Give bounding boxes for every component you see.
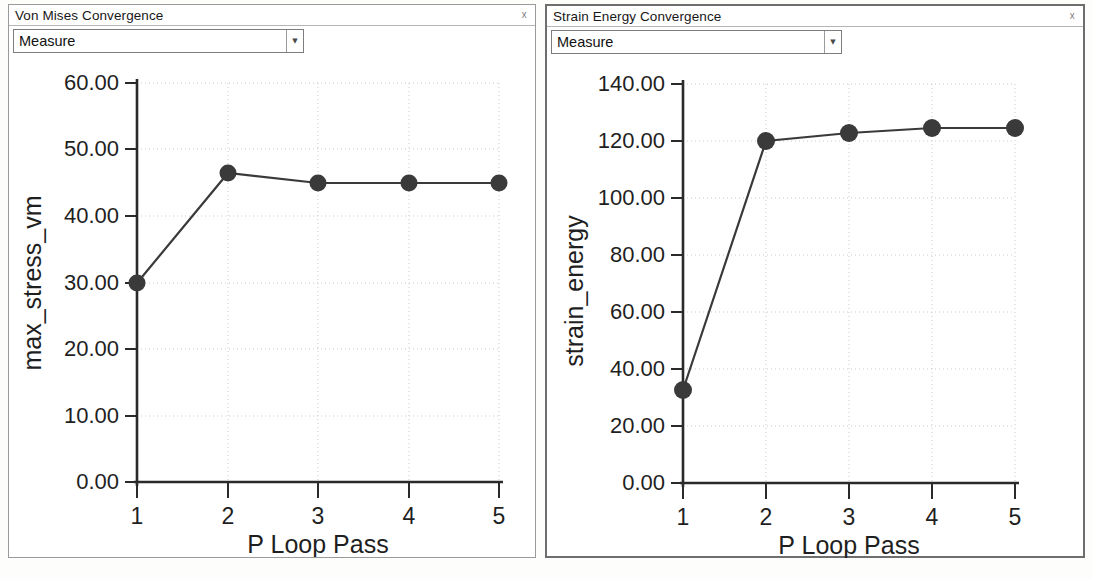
y-tick-label: 0.00 bbox=[76, 469, 119, 494]
x-tick-label: 4 bbox=[926, 504, 939, 530]
y-tick-label: 60.00 bbox=[610, 299, 665, 324]
x-tick-label: 4 bbox=[403, 503, 416, 529]
data-point bbox=[310, 175, 327, 192]
y-tick-label: 100.00 bbox=[598, 185, 665, 210]
x-tick-label: 5 bbox=[1009, 504, 1022, 530]
x-axis-ticks bbox=[683, 483, 1015, 499]
data-point bbox=[129, 275, 146, 292]
x-tick-label: 1 bbox=[677, 504, 690, 530]
data-point bbox=[757, 132, 775, 150]
chart-svg-von-mises: 60.00 50.00 40.00 30.00 20.00 10.00 0.00… bbox=[9, 55, 535, 557]
y-tick-label: 20.00 bbox=[64, 336, 119, 361]
x-tick-label: 2 bbox=[222, 503, 235, 529]
x-tick-label: 1 bbox=[131, 503, 144, 529]
chart-von-mises: 60.00 50.00 40.00 30.00 20.00 10.00 0.00… bbox=[9, 55, 535, 557]
y-tick-label: 80.00 bbox=[610, 242, 665, 267]
scanned-page: Von Mises Convergence ☓ Measure ▼ bbox=[0, 0, 1093, 579]
panel-title: Von Mises Convergence bbox=[9, 8, 163, 23]
measure-dropdown[interactable]: Measure ▼ bbox=[13, 29, 304, 53]
y-tick-label: 140.00 bbox=[598, 71, 665, 96]
x-tick-label: 5 bbox=[493, 503, 506, 529]
y-axis-ticks bbox=[671, 84, 683, 483]
measure-dropdown-value: Measure bbox=[552, 34, 824, 50]
x-tick-label: 2 bbox=[760, 504, 773, 530]
data-point bbox=[674, 381, 692, 399]
y-tick-label: 120.00 bbox=[598, 128, 665, 153]
chart-strain-energy: 140.00 120.00 100.00 80.00 60.00 40.00 2… bbox=[547, 56, 1083, 556]
y-axis-label: strain_energy bbox=[560, 215, 588, 367]
measure-dropdown[interactable]: Measure ▼ bbox=[551, 30, 842, 54]
chevron-down-icon[interactable]: ▼ bbox=[824, 31, 841, 53]
y-tick-label: 60.00 bbox=[64, 70, 119, 95]
chevron-down-icon[interactable]: ▼ bbox=[286, 30, 303, 52]
data-point bbox=[401, 175, 418, 192]
panel-strain-energy-convergence[interactable]: Strain Energy Convergence ☓ Measure ▼ bbox=[545, 4, 1085, 558]
panel-title: Strain Energy Convergence bbox=[547, 9, 721, 24]
x-tick-label: 3 bbox=[312, 503, 325, 529]
data-point bbox=[491, 175, 508, 192]
y-tick-label: 30.00 bbox=[64, 270, 119, 295]
x-axis-ticks bbox=[137, 482, 499, 498]
close-icon[interactable]: ☓ bbox=[521, 10, 527, 21]
y-tick-label: 10.00 bbox=[64, 403, 119, 428]
y-tick-label: 50.00 bbox=[64, 136, 119, 161]
y-axis-tick-labels: 140.00 120.00 100.00 80.00 60.00 40.00 2… bbox=[598, 71, 665, 495]
close-icon[interactable]: ☓ bbox=[1069, 11, 1075, 22]
x-tick-label: 3 bbox=[843, 504, 856, 530]
x-axis-tick-labels: 1 2 3 4 5 bbox=[131, 503, 506, 529]
data-point bbox=[923, 119, 941, 137]
y-axis-tick-labels: 60.00 50.00 40.00 30.00 20.00 10.00 0.00 bbox=[64, 70, 119, 494]
y-tick-label: 0.00 bbox=[622, 470, 665, 495]
measure-dropdown-value: Measure bbox=[14, 33, 286, 49]
y-tick-label: 40.00 bbox=[64, 203, 119, 228]
panel-titlebar: Strain Energy Convergence ☓ bbox=[547, 6, 1083, 27]
chart-svg-strain-energy: 140.00 120.00 100.00 80.00 60.00 40.00 2… bbox=[547, 56, 1083, 558]
data-point bbox=[1006, 119, 1024, 137]
x-axis-tick-labels: 1 2 3 4 5 bbox=[677, 504, 1022, 530]
gridlines bbox=[683, 84, 1015, 483]
data-point bbox=[840, 124, 858, 142]
panel-von-mises-convergence[interactable]: Von Mises Convergence ☓ Measure ▼ bbox=[8, 4, 536, 558]
x-axis-label: P Loop Pass bbox=[247, 530, 388, 557]
data-point bbox=[220, 165, 237, 182]
y-tick-label: 20.00 bbox=[610, 413, 665, 438]
panel-titlebar: Von Mises Convergence ☓ bbox=[9, 5, 535, 26]
x-axis-label: P Loop Pass bbox=[778, 531, 919, 558]
y-axis-label: max_stress_vm bbox=[18, 195, 46, 370]
y-tick-label: 40.00 bbox=[610, 356, 665, 381]
gridlines bbox=[137, 83, 499, 482]
